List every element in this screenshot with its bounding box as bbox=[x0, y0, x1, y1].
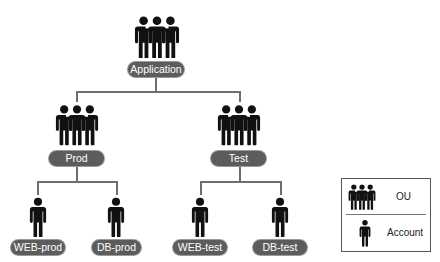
node-label: DB-test bbox=[253, 240, 307, 255]
connector bbox=[155, 77, 157, 92]
person-icon bbox=[271, 197, 289, 237]
group-people-icon bbox=[217, 103, 261, 147]
connector bbox=[200, 181, 281, 183]
group-people-icon bbox=[348, 183, 376, 211]
node-label: WEB-test bbox=[173, 240, 227, 255]
legend-divider bbox=[346, 214, 426, 215]
connector bbox=[200, 181, 202, 195]
connector bbox=[76, 91, 240, 93]
connector bbox=[116, 181, 118, 195]
person-icon bbox=[107, 197, 125, 237]
node-label: WEB-prod bbox=[11, 240, 65, 255]
person-icon bbox=[359, 219, 371, 247]
connector bbox=[76, 166, 78, 182]
group-people-icon bbox=[134, 14, 180, 60]
legend: OU Account bbox=[341, 178, 431, 252]
connector bbox=[37, 181, 117, 183]
group-people-icon bbox=[55, 103, 99, 147]
org-diagram: Application Prod Test WEB-prod DB-prod W… bbox=[0, 0, 440, 262]
legend-label-account: Account bbox=[387, 227, 423, 238]
connector bbox=[280, 181, 282, 195]
connector bbox=[76, 91, 78, 102]
connector bbox=[239, 166, 241, 182]
connector bbox=[239, 91, 241, 102]
legend-label-ou: OU bbox=[396, 191, 411, 202]
person-icon bbox=[191, 197, 209, 237]
connector bbox=[37, 181, 39, 195]
node-label: Prod bbox=[49, 151, 104, 166]
node-label: DB-prod bbox=[92, 240, 141, 255]
node-label: Test bbox=[211, 151, 266, 166]
node-label: Application bbox=[128, 62, 184, 77]
person-icon bbox=[29, 197, 47, 237]
